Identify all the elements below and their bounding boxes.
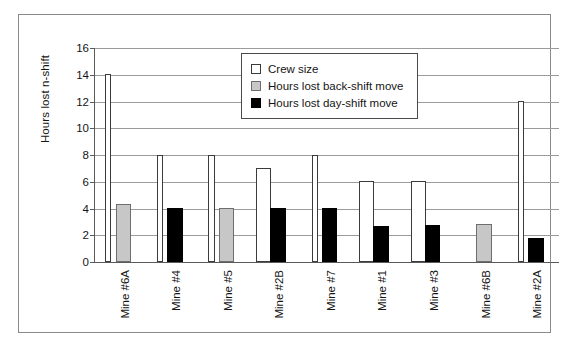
y-axis-tick-label: 8 [49, 149, 89, 161]
y-axis-tick-label: 4 [49, 203, 89, 215]
x-axis-category-label: Mine #2A [531, 270, 543, 319]
x-axis-category-label: Mine #1 [376, 270, 388, 311]
legend-swatch-back-shift-icon [251, 81, 261, 91]
legend-label: Crew size [268, 63, 318, 75]
bar-hours-lost-day-shift [167, 208, 182, 262]
x-axis-category-label: Mine #5 [222, 270, 234, 311]
y-axis-tick-label: 14 [49, 69, 89, 81]
x-axis-category-label: Mine #6B [480, 270, 492, 319]
bar-crew-size [105, 74, 111, 262]
bar-crew-size [208, 155, 214, 263]
bar-hours-lost-back-shift [116, 204, 131, 262]
legend-swatch-crew-size-icon [251, 64, 261, 74]
y-axis-tick-mark [90, 262, 95, 263]
bar-hours-lost-back-shift [219, 208, 234, 262]
y-axis-tick-label: 2 [49, 229, 89, 241]
x-axis-category-label: Mine #4 [170, 270, 182, 311]
bar-hours-lost-back-shift [476, 224, 491, 262]
bar-group: Mine #6B [456, 48, 508, 262]
legend-item: Hours lost back-shift move [251, 77, 404, 94]
x-axis-category-label: Mine #7 [325, 270, 337, 311]
bar-crew-size [359, 181, 374, 262]
y-axis-tick-label: 12 [49, 96, 89, 108]
bar-group: Mine #4 [147, 48, 199, 262]
legend-label: Hours lost back-shift move [268, 80, 404, 92]
chart-legend: Crew size Hours lost back-shift move Hou… [241, 53, 418, 119]
legend-label: Hours lost day-shift move [268, 97, 398, 109]
bar-hours-lost-day-shift [322, 208, 337, 262]
bar-crew-size [518, 101, 524, 262]
bar-group: Mine #2A [507, 48, 559, 262]
bar-hours-lost-day-shift [373, 226, 388, 262]
bar-group: Mine #6A [95, 48, 147, 262]
bar-hours-lost-day-shift [528, 238, 543, 262]
chart-figure: Hours lost n-shift 0246810121416 Mine #6… [0, 0, 568, 347]
legend-item: Crew size [251, 60, 404, 77]
legend-swatch-day-shift-icon [251, 98, 261, 108]
bar-crew-size [411, 181, 426, 262]
y-axis-tick-label: 0 [49, 256, 89, 268]
chart-frame: Hours lost n-shift 0246810121416 Mine #6… [18, 14, 551, 333]
x-axis-category-label: Mine #3 [428, 270, 440, 311]
y-axis-tick-label: 6 [49, 176, 89, 188]
bar-hours-lost-day-shift [270, 208, 285, 262]
y-axis-tick-label: 10 [49, 122, 89, 134]
bar-crew-size [157, 155, 163, 263]
bar-hours-lost-day-shift [425, 225, 440, 262]
legend-item: Hours lost day-shift move [251, 94, 404, 111]
bar-crew-size [312, 155, 318, 263]
x-axis-category-label: Mine #6A [119, 270, 131, 319]
x-axis-category-label: Mine #2B [273, 270, 285, 319]
y-axis-tick-label: 16 [49, 42, 89, 54]
bar-crew-size [256, 168, 271, 262]
